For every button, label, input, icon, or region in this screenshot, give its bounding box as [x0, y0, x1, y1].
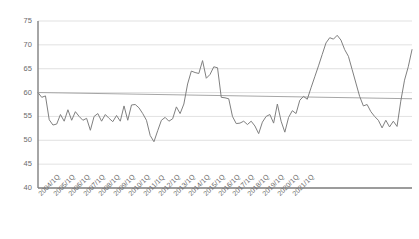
y-axis-tick-label: 50	[10, 136, 32, 144]
y-axis-tick-label: 75	[10, 17, 32, 25]
y-axis-tick-label: 45	[10, 160, 32, 168]
y-axis-tick-label: 70	[10, 41, 32, 49]
gridlines	[38, 21, 412, 188]
line-chart-plot	[0, 0, 419, 239]
y-axis-tick-label: 60	[10, 89, 32, 97]
y-axis-tick-label: 40	[10, 184, 32, 192]
data-series-line	[38, 35, 412, 141]
y-axis-tick-label: 55	[10, 112, 32, 120]
chart-container: 4045505560657075 2004/1Q2005/1Q2006/1Q20…	[0, 0, 419, 239]
y-axis-tick-label: 65	[10, 65, 32, 73]
axis-lines	[38, 21, 412, 188]
